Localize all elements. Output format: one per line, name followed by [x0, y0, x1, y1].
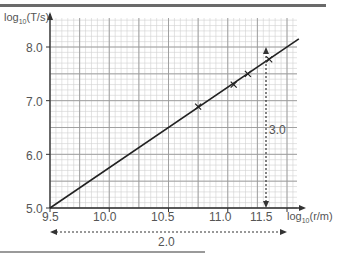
arrow-right-icon: [280, 229, 287, 235]
y-tick-7: 7.0: [26, 96, 43, 108]
bottom-rule: [0, 251, 205, 253]
x-tick-10-0: 10.0: [93, 211, 116, 223]
y-tick-6: 6.0: [26, 150, 43, 162]
delta-y-label: 3.0: [269, 124, 286, 136]
y-axis-label: log10(T/s): [4, 12, 49, 25]
x-tick-11-0: 11.0: [209, 211, 231, 223]
y-tick-5: 5.0: [26, 203, 43, 215]
x-tick-10-5: 10.5: [151, 211, 174, 223]
y-tick-8: 8.0: [26, 42, 43, 54]
arrow-down-icon: [263, 201, 269, 208]
x-tick-11-5: 11.5: [250, 211, 272, 223]
delta-x-label: 2.0: [158, 236, 175, 248]
arrow-up-icon: [263, 47, 269, 54]
x-tick-9-5: 9.5: [42, 211, 59, 223]
x-axis-label: log10(r/m): [287, 211, 333, 224]
arrow-left-icon: [50, 229, 57, 235]
